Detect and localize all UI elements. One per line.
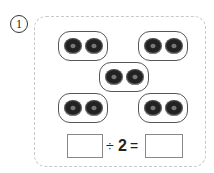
problem-number: 1 xyxy=(10,15,28,33)
dividend-answer-box[interactable] xyxy=(67,134,103,158)
donut-group-bottom-right xyxy=(138,93,188,123)
donut-group-top-right xyxy=(138,31,188,61)
donut-icon xyxy=(144,38,162,54)
donut-icon xyxy=(165,38,183,54)
donut-icon xyxy=(64,38,82,54)
donut-icon xyxy=(165,100,183,116)
equals-sign: = xyxy=(130,134,138,158)
donut-icon xyxy=(105,69,123,85)
donut-icon xyxy=(85,100,103,116)
donut-group-bottom-left xyxy=(58,93,108,123)
donut-icon xyxy=(144,100,162,116)
divisor-value: 2 xyxy=(118,134,127,158)
donut-icon xyxy=(64,100,82,116)
donut-group-top-left xyxy=(58,31,108,61)
donut-icon xyxy=(126,69,144,85)
donut-icon xyxy=(85,38,103,54)
divide-sign: ÷ xyxy=(106,134,114,158)
quotient-answer-box[interactable] xyxy=(145,134,183,158)
donut-group-middle xyxy=(99,62,149,92)
